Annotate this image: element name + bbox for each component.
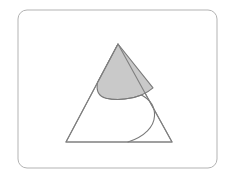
figure-container: Triangle with shaded curved region — [0, 0, 233, 178]
geometry-figure-svg — [0, 0, 233, 178]
